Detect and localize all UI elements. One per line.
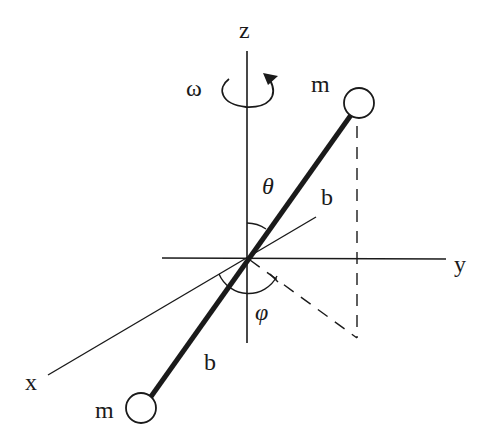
- rotation-arrowhead-icon: [263, 73, 278, 85]
- bottom-mass-label: m: [95, 397, 114, 423]
- bottom-mass: [126, 393, 156, 423]
- x-axis-label: x: [25, 369, 37, 395]
- diagram-svg: z y x ω m m θ φ b b: [0, 0, 490, 440]
- top-mass: [344, 88, 374, 118]
- upper-b-label: b: [321, 184, 333, 210]
- top-mass-label: m: [311, 71, 330, 97]
- rigid-rotor-diagram: z y x ω m m θ φ b b: [0, 0, 490, 440]
- rod: [150, 115, 351, 398]
- y-axis-label: y: [454, 251, 466, 277]
- phi-label: φ: [255, 299, 268, 325]
- y-axis: [162, 258, 446, 259]
- omega-label: ω: [186, 75, 202, 101]
- theta-label: θ: [262, 173, 274, 199]
- theta-arc: [247, 223, 266, 229]
- z-axis-label: z: [239, 17, 250, 43]
- lower-b-label: b: [204, 349, 216, 375]
